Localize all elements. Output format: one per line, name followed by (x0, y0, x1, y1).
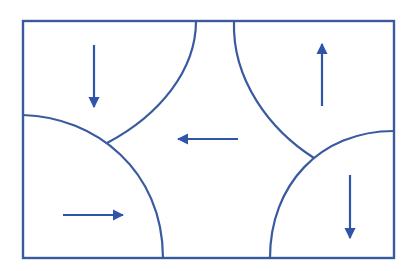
boundary-bottom-right (270, 131, 394, 258)
boundary-top-right (234, 21, 314, 158)
domain-diagram (0, 0, 418, 271)
boundary-bottom-left (23, 115, 163, 258)
boundary-top-left (107, 21, 196, 143)
diagram-svg (0, 0, 418, 271)
